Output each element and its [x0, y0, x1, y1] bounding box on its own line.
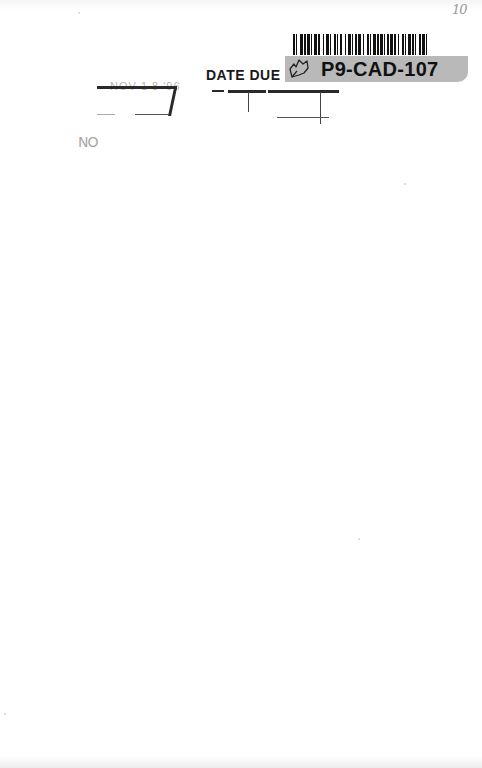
date-due-heading: DATE DUE: [206, 67, 281, 83]
slip-rule-right-bottom: [277, 117, 329, 118]
slip-rule-left-dash: [97, 114, 115, 115]
slip-rule-divider-2: [320, 92, 321, 124]
slip-rule-left-slash: [168, 88, 177, 116]
handwritten-corner-mark: 10: [452, 2, 467, 17]
scan-edge-bottom: [0, 756, 482, 768]
slip-rule-left-bottom: [135, 114, 169, 115]
slip-rule-right-dash: [212, 90, 224, 92]
leaf-outline-icon: [287, 57, 313, 81]
slip-rule-right-top-1: [228, 90, 266, 93]
barcode-number: P9-CAD-107: [321, 57, 438, 81]
slip-rule-divider-1: [248, 92, 249, 112]
slip-rule-left-top: [97, 86, 177, 89]
scan-speck: [4, 713, 6, 715]
barcode: [293, 34, 450, 55]
scan-speck: [404, 183, 406, 185]
scan-speck: [78, 12, 80, 14]
scan-edge-top: [0, 0, 482, 10]
margin-mark: NO: [78, 134, 98, 150]
slip-rule-right-top-2: [268, 90, 339, 93]
scan-speck: [358, 538, 360, 540]
